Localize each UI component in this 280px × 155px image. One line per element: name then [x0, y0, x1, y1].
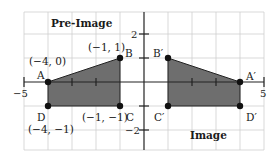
label-c-prime: C′ [154, 111, 165, 123]
point-a [45, 79, 51, 85]
point-c [117, 103, 123, 109]
label-b: B [125, 47, 133, 59]
point-c-prime [165, 103, 171, 109]
label-b-prime: B′ [153, 47, 164, 59]
label-d-prime: D′ [246, 111, 257, 123]
coord-c: (−1, −1) [82, 111, 128, 123]
y-tick-pos: 2 [131, 29, 137, 40]
point-a-prime [237, 79, 243, 85]
point-b [117, 55, 123, 61]
x-tick-min: −5 [13, 88, 28, 99]
x-tick-max: 5 [260, 88, 266, 99]
point-d-prime [237, 103, 243, 109]
label-d: D [37, 111, 45, 123]
coord-d: (−4, −1) [28, 123, 74, 135]
image-title: Image [190, 129, 227, 141]
label-a: A [36, 69, 45, 81]
pre-image-title: Pre-Image [51, 17, 113, 29]
label-a-prime: A′ [245, 70, 257, 82]
point-d [45, 103, 51, 109]
y-tick-neg: −2 [125, 125, 140, 136]
coordinate-plane-figure: −5 5 2 −2 Pre-Image Image A (−4, 0) B (−… [0, 0, 280, 155]
coord-a: (−4, 0) [29, 55, 66, 67]
point-b-prime [165, 55, 171, 61]
coord-b: (−1, 1) [88, 41, 125, 53]
